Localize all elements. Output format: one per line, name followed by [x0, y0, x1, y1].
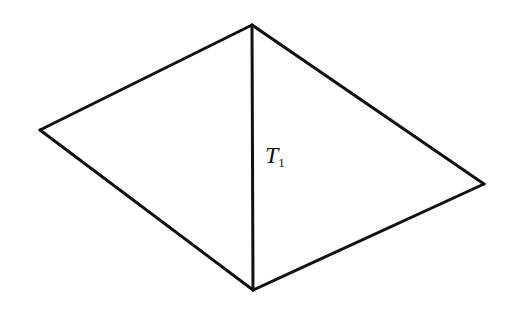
- triangle-label: T1: [265, 142, 285, 170]
- edge-right-bottom: [253, 184, 484, 290]
- edge-top-left: [40, 25, 252, 130]
- edge-top-right: [252, 25, 484, 184]
- label-subscript: 1: [278, 155, 285, 170]
- diagram-canvas: T1: [0, 0, 512, 309]
- edge-diagonal-shared: [252, 25, 253, 290]
- edge-left-bottom: [40, 130, 253, 290]
